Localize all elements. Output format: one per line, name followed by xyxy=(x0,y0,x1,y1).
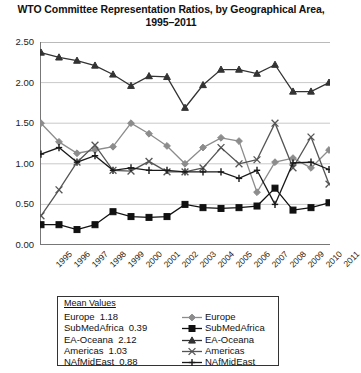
data-point xyxy=(128,214,134,220)
y-axis-label: 0.00 xyxy=(0,240,34,249)
data-point xyxy=(164,214,170,220)
x-axis-label: 2005 xyxy=(234,249,254,269)
x-axis-label: 2002 xyxy=(180,249,200,269)
legend-mean-row: NAfMidEast0.88 xyxy=(64,355,138,368)
data-point xyxy=(40,49,44,55)
data-point xyxy=(236,175,242,182)
data-point xyxy=(128,82,135,88)
series-europe xyxy=(40,120,330,196)
data-point xyxy=(272,201,278,208)
data-point xyxy=(326,200,330,206)
data-point xyxy=(218,134,225,141)
data-point xyxy=(326,166,330,173)
data-point xyxy=(218,168,224,175)
data-point xyxy=(74,150,81,157)
data-point xyxy=(56,186,63,193)
data-point xyxy=(146,167,152,174)
data-point xyxy=(182,201,188,207)
x-axis-label: 1998 xyxy=(108,249,128,269)
x-axis-label: 1995 xyxy=(54,249,74,269)
x-axis-label: 1997 xyxy=(90,249,110,269)
data-point xyxy=(218,144,225,151)
x-axis-label: 2003 xyxy=(198,249,218,269)
x-axis-label: 1996 xyxy=(72,249,92,269)
data-point xyxy=(200,205,206,211)
legend-key-label: NAfMidEast xyxy=(205,356,255,367)
chart-canvas xyxy=(40,42,330,245)
x-axis-label: 2011 xyxy=(341,249,361,269)
series-line xyxy=(41,123,329,192)
data-point xyxy=(189,314,196,321)
series-line xyxy=(41,188,329,229)
y-axis-label: 0.50 xyxy=(0,199,34,208)
x-axis-label: 2001 xyxy=(162,249,182,269)
legend-mean-name: NAfMidEast xyxy=(64,355,114,368)
data-point xyxy=(254,189,261,196)
data-point xyxy=(56,222,62,228)
series-nafmideast xyxy=(40,144,330,208)
legend-key-nafmideast[interactable]: NAfMidEast xyxy=(182,355,255,368)
data-point xyxy=(40,150,44,157)
y-axis-label: 2.00 xyxy=(0,78,34,87)
data-point xyxy=(308,205,314,211)
y-axis-label: 1.50 xyxy=(0,118,34,127)
x-axis-label: 2006 xyxy=(252,249,272,269)
data-point xyxy=(254,167,260,174)
data-point xyxy=(308,134,315,141)
x-axis-label: 2009 xyxy=(306,249,326,269)
data-point xyxy=(189,326,195,332)
data-point xyxy=(40,222,44,228)
data-point xyxy=(218,205,224,211)
data-point xyxy=(272,159,279,166)
data-point xyxy=(236,205,242,211)
data-point xyxy=(92,222,98,228)
data-point xyxy=(254,203,260,209)
data-point xyxy=(236,138,243,145)
x-axis-label: 2010 xyxy=(324,249,344,269)
x-axis-label: 2008 xyxy=(288,249,308,269)
x-axis-label: 2000 xyxy=(144,249,164,269)
series-line xyxy=(41,53,329,108)
legend-marker-icon xyxy=(182,357,202,368)
data-point xyxy=(189,359,195,366)
y-axis-label: 2.50 xyxy=(0,37,34,46)
data-point xyxy=(272,185,278,191)
legend-title: Mean Values xyxy=(64,298,116,308)
chart-title: WTO Committee Representation Ratios, by … xyxy=(12,3,330,29)
x-axis-label: 2004 xyxy=(216,249,236,269)
data-point xyxy=(290,207,296,213)
x-axis: 1995199619971998199920002001200220032004… xyxy=(40,247,335,281)
data-point xyxy=(146,214,152,220)
data-point xyxy=(308,159,314,166)
data-point xyxy=(272,61,279,67)
x-axis-label: 2007 xyxy=(270,249,290,269)
legend-mean-value: 0.88 xyxy=(119,355,138,368)
series-submedafrica xyxy=(40,185,330,232)
data-point xyxy=(74,227,80,233)
x-axis-label: 1999 xyxy=(126,249,146,269)
data-point xyxy=(110,209,116,215)
y-axis-label: 1.00 xyxy=(0,159,34,168)
data-point xyxy=(164,167,170,174)
chart-legend: Mean Values Europe1.18EuropeSubMedAfrica… xyxy=(57,296,279,366)
series-ea-oceana xyxy=(40,49,330,110)
plot-area xyxy=(40,42,330,245)
